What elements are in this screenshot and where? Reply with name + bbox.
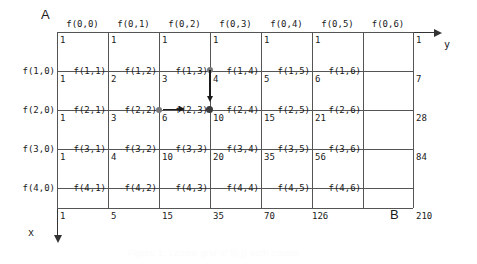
cell-value-2-5: 21	[315, 114, 326, 123]
cell-value-3-4: 35	[264, 153, 275, 162]
cell-value-3-3: 20	[213, 153, 224, 162]
cell-value-1-0: 1	[60, 75, 65, 84]
figure-caption-watermark: Figure 1: Lattice grid of f(i,j) path co…	[128, 248, 300, 258]
column-header-2: f(0,2)	[159, 20, 210, 29]
end-node-label-b: B	[390, 208, 399, 221]
column-header-3: f(0,3)	[210, 20, 261, 29]
grid-vline-1	[108, 32, 109, 208]
column-header-0: f(0,0)	[57, 20, 108, 29]
cell-value-1-4: 5	[264, 75, 269, 84]
cell-value-3-6: 84	[416, 153, 427, 162]
x-axis-label: x	[28, 228, 34, 238]
cell-value-0-1: 1	[111, 36, 116, 45]
row-header-2: f(3,0)	[0, 145, 55, 154]
cell-value-0-0: 1	[60, 36, 65, 45]
cell-value-0-4: 1	[264, 36, 269, 45]
diagram-canvas: A B y x f(0,0) f(0,1) f(0,2) f(0,3) f(0,…	[0, 0, 477, 264]
path-line-vertical	[209, 70, 210, 98]
path-node-left-marker	[156, 107, 162, 113]
cell-value-0-3: 1	[213, 36, 218, 45]
cell-value-1-5: 6	[315, 75, 320, 84]
start-node-label-a: A	[41, 8, 50, 21]
cell-value-2-1: 3	[111, 114, 116, 123]
cell-value-1-3: 4	[213, 75, 218, 84]
y-axis-arrowhead-icon	[434, 29, 442, 37]
column-header-1: f(0,1)	[108, 20, 159, 29]
path-line-horizontal	[163, 109, 180, 110]
grid-hline-5	[57, 208, 413, 209]
cell-value-4-1: 5	[111, 212, 116, 221]
cell-value-3-5: 56	[315, 153, 326, 162]
x-axis-arrowhead-icon	[54, 235, 62, 243]
cell-name-4-3: f(4,3)	[159, 184, 208, 193]
cell-value-2-6: 28	[416, 114, 427, 123]
cell-name-4-4: f(4,4)	[210, 184, 259, 193]
column-header-5: f(0,5)	[312, 20, 363, 29]
grid-vline-2	[159, 32, 160, 208]
cell-value-0-6: 1	[416, 36, 421, 45]
cell-value-1-2: 3	[162, 75, 167, 84]
column-header-4: f(0,4)	[261, 20, 312, 29]
cell-value-2-2: 6	[162, 114, 167, 123]
cell-value-2-0: 1	[60, 114, 65, 123]
grid-vline-0	[57, 32, 58, 208]
cell-value-4-3: 35	[213, 212, 224, 221]
y-axis-label: y	[444, 40, 450, 50]
row-header-0: f(1,0)	[0, 67, 55, 76]
cell-value-0-5: 1	[315, 36, 320, 45]
path-node-target-marker	[206, 106, 213, 113]
grid-vline-4	[261, 32, 262, 208]
grid-vline-6	[363, 32, 364, 208]
cell-value-3-2: 10	[162, 153, 173, 162]
cell-value-1-1: 2	[111, 75, 116, 84]
column-header-6: f(0,6)	[363, 20, 413, 29]
cell-value-3-1: 4	[111, 153, 116, 162]
cell-value-2-3: 10	[213, 114, 224, 123]
row-header-3: f(4,0)	[0, 184, 55, 193]
cell-name-4-1: f(4,1)	[57, 184, 106, 193]
grid-vline-5	[312, 32, 313, 208]
cell-value-1-6: 7	[416, 75, 421, 84]
cell-value-0-2: 1	[162, 36, 167, 45]
cell-name-4-5: f(4,5)	[261, 184, 310, 193]
path-arrowhead-right-icon	[179, 106, 185, 112]
grid-vline-3	[210, 32, 211, 208]
cell-name-4-2: f(4,2)	[108, 184, 157, 193]
cell-value-4-4: 70	[264, 212, 275, 221]
cell-value-4-6: 210	[416, 212, 432, 221]
cell-name-4-6: f(4,6)	[312, 184, 361, 193]
row-header-1: f(2,0)	[0, 106, 55, 115]
cell-value-2-4: 15	[264, 114, 275, 123]
cell-value-3-0: 1	[60, 153, 65, 162]
grid-hline-0	[57, 32, 413, 33]
cell-value-4-5: 126	[312, 212, 328, 221]
cell-value-4-0: 1	[60, 212, 65, 221]
cell-value-4-2: 15	[162, 212, 173, 221]
grid-vline-7	[413, 32, 414, 208]
path-arrowhead-down-icon	[207, 96, 213, 102]
